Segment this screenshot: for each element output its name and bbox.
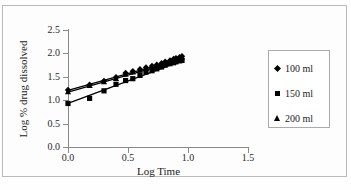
legend-item-label: 200 ml: [285, 113, 313, 124]
square-marker-icon: [101, 88, 106, 93]
diamond-marker-icon: [269, 66, 285, 71]
series-200-ml: [65, 54, 185, 94]
legend-item-150-ml[interactable]: 150 ml: [269, 86, 331, 100]
square-marker-icon: [113, 82, 118, 87]
legend: 100 ml150 ml200 ml: [268, 50, 330, 128]
legend-item-label: 150 ml: [285, 88, 313, 99]
square-marker-icon: [65, 101, 70, 106]
chart-figure: 0.00.51.01.52.02.5 0.00.51.01.5 Log % dr…: [0, 0, 351, 190]
legend-item-200-ml[interactable]: 200 ml: [269, 111, 331, 125]
square-marker-icon-glyph: [275, 91, 280, 96]
triangle-marker-icon: [269, 115, 285, 121]
square-marker-icon: [123, 78, 128, 83]
square-marker-icon: [269, 91, 285, 96]
legend-item-100-ml[interactable]: 100 ml: [269, 61, 331, 75]
triangle-marker-icon-glyph: [274, 115, 280, 121]
square-marker-icon: [87, 96, 92, 101]
diamond-marker-icon-glyph: [273, 64, 280, 71]
square-marker-icon: [130, 76, 135, 81]
square-marker-icon: [137, 73, 142, 78]
legend-item-label: 100 ml: [285, 63, 313, 74]
